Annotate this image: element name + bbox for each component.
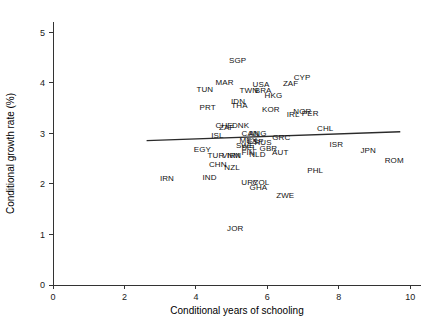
point-label-jor: JOR <box>227 224 243 233</box>
point-label-irn: IRN <box>227 151 241 160</box>
point-label-tun: TUN <box>196 85 213 94</box>
point-label-chl: CHL <box>317 124 334 133</box>
point-label-sgp: SGP <box>229 56 246 65</box>
plot-svg: 0246810012345 SGPCYPMARZAFUSATUNTWNBRAHK… <box>0 0 432 321</box>
point-label-mar: MAR <box>215 78 233 87</box>
x-axis-title: Conditional years of schooling <box>170 305 303 316</box>
point-label-nld: NLD <box>249 150 265 159</box>
point-label-zaf: ZAF <box>283 79 298 88</box>
y-tick-label: 4 <box>40 78 45 88</box>
y-tick-label: 5 <box>40 28 45 38</box>
point-label-nzl: NZL <box>224 163 240 172</box>
point-label-prt: PRT <box>200 103 216 112</box>
point-label-jpn: JPN <box>360 146 376 155</box>
point-label-irn: IRN <box>160 174 174 183</box>
y-tick-label: 1 <box>40 230 45 240</box>
point-label-kor: KOR <box>262 105 280 114</box>
axis-titles: Conditional years of schoolingConditiona… <box>5 93 304 316</box>
y-tick-label: 0 <box>40 280 45 290</box>
point-label-aut: AUT <box>272 148 288 157</box>
point-label-ind: IND <box>202 173 216 182</box>
point-label-phl: PHL <box>307 166 323 175</box>
point-label-irl: IRL <box>287 110 300 119</box>
x-tick-label: 8 <box>336 292 341 302</box>
point-label-isl: ISL <box>211 131 224 140</box>
scatter-chart-figure: 0246810012345 SGPCYPMARZAFUSATUNTWNBRAHK… <box>0 0 432 321</box>
y-tick-label: 2 <box>40 179 45 189</box>
x-tick-label: 2 <box>122 292 127 302</box>
y-tick-label: 3 <box>40 129 45 139</box>
x-tick-label: 4 <box>193 292 198 302</box>
point-label-tha: THA <box>231 101 248 110</box>
point-label-grc: GRC <box>272 133 290 142</box>
x-tick-label: 0 <box>50 292 55 302</box>
point-label-gha: GHA <box>250 183 268 192</box>
point-label-rom: ROM <box>385 156 404 165</box>
point-label-hkg: HKG <box>265 91 283 100</box>
y-axis-title: Conditional growth rate (%) <box>5 93 16 214</box>
point-label-isr: ISR <box>330 140 344 149</box>
x-tick-label: 6 <box>265 292 270 302</box>
data-point-labels: SGPCYPMARZAFUSATUNTWNBRAHKGIDNTHAPRTKORN… <box>160 56 404 232</box>
point-label-per: PER <box>302 109 319 118</box>
point-label-zwe: ZWE <box>276 191 294 200</box>
x-tick-label: 10 <box>405 292 415 302</box>
